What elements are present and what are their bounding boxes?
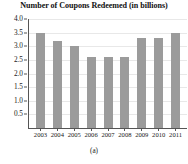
y-axis-tick-mark [24,114,27,115]
bar-2005 [70,46,79,128]
x-axis-tick-label: 2011 [167,130,184,140]
y-axis-tick-mark [24,100,27,101]
bar-slot [49,19,66,128]
y-axis-tick-labels: 4.03.53.02.52.01.51.00.5 [0,19,26,128]
bar-slot [116,19,133,128]
x-axis-tick-label: 2010 [150,130,167,140]
x-axis-tick-label: 2006 [83,130,100,140]
figure-caption: (a) [0,147,188,156]
bar-slot [167,19,184,128]
bar-2006 [87,57,96,128]
y-axis-tick-label: 3.5 [14,29,23,37]
bar-slot [100,19,117,128]
y-axis-tick-label: 4.0 [14,15,23,23]
x-axis-tick-label: 2008 [116,130,133,140]
chart-title: Number of Coupons Redeemed (in billions) [0,1,188,11]
x-axis-tick-label: 2004 [49,130,66,140]
y-axis-tick-label: 3.0 [14,42,23,50]
y-axis-tick-label: 2.5 [14,56,23,64]
bar-slot [133,19,150,128]
x-axis-tick-label: 2007 [100,130,117,140]
bar-2008 [120,57,129,128]
y-axis-tick-label: 1.5 [14,83,23,91]
y-axis-tick-mark [24,19,27,20]
y-axis-tick-mark [24,73,27,74]
y-axis-tick-label: 2.0 [14,70,23,78]
y-axis-tick-label: 1.0 [14,97,23,105]
y-axis-tick-label: 0.5 [14,110,23,118]
bar-slot [83,19,100,128]
y-axis-tick-mark [24,87,27,88]
bar-2009 [137,38,146,128]
x-axis-tick-labels: 200320042005200620072008200920102011 [29,130,186,140]
y-axis-tick-mark [24,32,27,33]
bar-2004 [53,41,62,128]
y-axis-tick-mark [24,59,27,60]
bar-slot [150,19,167,128]
x-axis-tick-label: 2005 [66,130,83,140]
x-axis-tick-label: 2003 [32,130,49,140]
figure-panel: Number of Coupons Redeemed (in billions)… [0,0,188,164]
bar-series [29,19,186,128]
bar-2003 [36,33,45,128]
bar-2007 [104,57,113,128]
bar-slot [66,19,83,128]
y-axis-tick-mark [24,46,27,47]
bar-slot [32,19,49,128]
bar-2011 [171,33,180,128]
x-axis-tick-label: 2009 [133,130,150,140]
bar-2010 [154,38,163,128]
